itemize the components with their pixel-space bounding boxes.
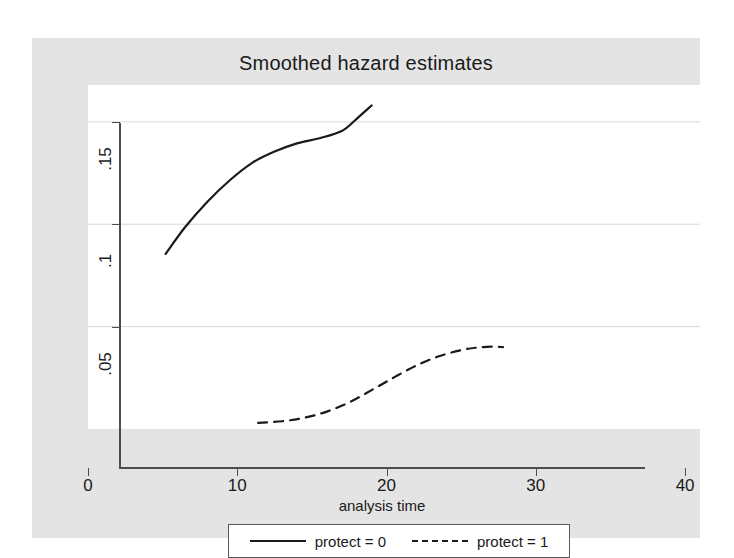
legend-item: protect = 1: [412, 533, 548, 550]
x-axis-title: analysis time: [120, 497, 644, 514]
x-tick-mark: [88, 468, 89, 476]
x-tick-label: 30: [516, 476, 556, 496]
x-tick-mark: [237, 468, 238, 476]
x-tick-mark: [685, 468, 686, 476]
plot-svg: [88, 85, 700, 429]
series-line: [258, 347, 503, 423]
plot-area: [88, 85, 700, 429]
x-tick-mark: [536, 468, 537, 476]
chart-legend: protect = 0 protect = 1: [228, 524, 570, 558]
x-tick-label: 40: [665, 476, 705, 496]
legend-line-solid-icon: [250, 535, 306, 547]
y-tick-label: .15: [96, 122, 116, 196]
legend-line-dashed-icon: [412, 535, 468, 547]
x-tick-label: 20: [367, 476, 407, 496]
y-axis-line: [119, 123, 121, 469]
chart-title: Smoothed hazard estimates: [32, 52, 700, 75]
x-tick-mark: [387, 468, 388, 476]
x-axis-line: [119, 467, 645, 469]
legend-item: protect = 0: [250, 533, 386, 550]
legend-item-label: protect = 1: [477, 533, 548, 550]
graph-region: Smoothed hazard estimates .05.1.15 01020…: [32, 38, 700, 538]
series-layer: [166, 105, 503, 422]
y-tick-label: .05: [96, 327, 116, 401]
x-tick-label: 10: [217, 476, 257, 496]
x-tick-label: 0: [68, 476, 108, 496]
y-tick-label: .1: [96, 224, 116, 298]
gridlines: [88, 122, 700, 327]
legend-item-label: protect = 0: [315, 533, 386, 550]
chart-screenshot: Smoothed hazard estimates .05.1.15 01020…: [0, 0, 734, 558]
series-line: [166, 105, 372, 253]
